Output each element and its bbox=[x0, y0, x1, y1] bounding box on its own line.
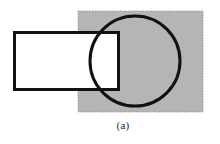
outlined-rectangle bbox=[15, 33, 119, 90]
figure-container: (a) bbox=[0, 0, 220, 144]
figure-graphic bbox=[0, 0, 220, 144]
